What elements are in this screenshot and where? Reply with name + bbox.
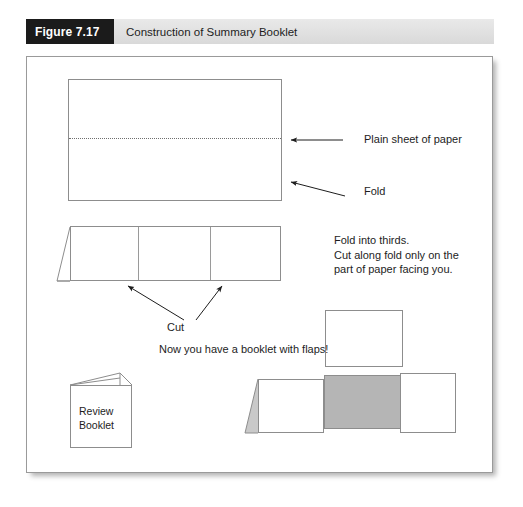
label-fold: Fold	[364, 184, 385, 199]
booklet-upper-panel	[325, 310, 403, 367]
strip-divider-right	[210, 227, 211, 280]
label-booklet-with-flaps: Now you have a booklet with flaps!	[159, 342, 328, 357]
folded-strip-rect	[70, 226, 281, 281]
figure-caption-bar: Figure 7.17 Construction of Summary Book…	[26, 19, 494, 44]
booklet-right-white-panel	[400, 373, 456, 433]
fold-line-dotted	[69, 138, 281, 139]
review-booklet-label: Review Booklet	[79, 404, 135, 432]
label-plain-sheet-of-paper: Plain sheet of paper	[364, 132, 462, 147]
figure-caption-title: Construction of Summary Booklet	[126, 19, 297, 44]
plain-sheet-rect	[68, 79, 282, 201]
label-instructions: Fold into thirds. Cut along fold only on…	[334, 233, 494, 277]
figure-7-17: Figure 7.17 Construction of Summary Book…	[0, 0, 523, 507]
booklet-left-white-panel	[258, 379, 324, 433]
strip-divider-left	[138, 227, 139, 280]
label-cut: Cut	[167, 320, 184, 335]
figure-number-badge: Figure 7.17	[26, 19, 114, 44]
booklet-gray-flap-panel	[324, 375, 401, 429]
